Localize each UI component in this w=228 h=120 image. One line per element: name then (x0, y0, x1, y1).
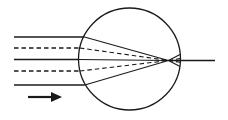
optics-ray-diagram (0, 0, 228, 120)
diagram-canvas (0, 0, 228, 120)
